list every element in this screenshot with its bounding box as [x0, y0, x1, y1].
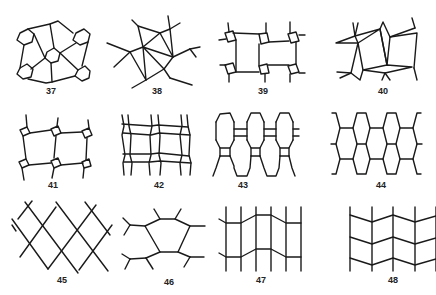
- figure-43: 43: [215, 100, 315, 195]
- figure-45: 45: [0, 195, 115, 295]
- figure-label: 38: [142, 86, 172, 96]
- figure-label: 48: [378, 275, 408, 285]
- figure-label: 47: [246, 275, 276, 285]
- figure-40: 40: [330, 0, 436, 100]
- rectangle-cells-drawing: [218, 0, 318, 100]
- figure-label: 39: [248, 86, 278, 96]
- figure-38: 38: [100, 0, 210, 100]
- figure-41: 41: [0, 100, 100, 195]
- figure-label: 45: [47, 275, 77, 285]
- figure-label: 42: [144, 180, 174, 190]
- triangle-star-drawing: [100, 0, 210, 100]
- figure-47: 47: [218, 195, 318, 295]
- figure-label: 46: [154, 277, 184, 287]
- figure-label: 37: [36, 86, 66, 96]
- figure-47: 48: [330, 195, 436, 295]
- figure-label: 44: [366, 180, 396, 190]
- figure-label: 41: [38, 180, 68, 190]
- figure-42: 42: [118, 100, 208, 195]
- figure-46: 46: [118, 195, 218, 295]
- figure-label: 43: [228, 180, 258, 190]
- figure-44: 44: [330, 100, 436, 195]
- figure-37: 37: [0, 0, 100, 100]
- rhombus-square-drawing: [330, 0, 436, 100]
- figure-39: 39: [218, 0, 318, 100]
- figure-label: 40: [368, 86, 398, 96]
- hexagon-tiling-drawing: [0, 0, 100, 100]
